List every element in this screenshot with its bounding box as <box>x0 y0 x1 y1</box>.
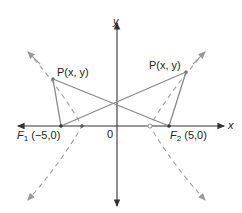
point-p-left-dot <box>51 77 55 81</box>
right-branch-upper-arrow <box>193 52 205 64</box>
vertex-left-dot <box>80 124 84 128</box>
focus-f2-subscript: 2 <box>177 134 181 143</box>
y-axis-label: y <box>113 16 119 27</box>
diagram-canvas <box>0 0 242 213</box>
point-p-right-dot <box>184 70 188 74</box>
origin-label: 0 <box>107 129 113 140</box>
focus-f1-coords: (−5,0) <box>31 129 60 141</box>
focus-f1-name: F <box>17 129 24 141</box>
focus-f2-dot <box>167 124 171 128</box>
focus-f1-label: F1 (−5,0) <box>17 130 60 143</box>
focus-f2-label: F2 (5,0) <box>170 130 207 143</box>
focus-f1-subscript: 1 <box>24 134 28 143</box>
segment-left-p-to-f1 <box>53 79 61 126</box>
segment-left-p-to-f2 <box>53 79 169 126</box>
x-axis-label: x <box>228 120 234 131</box>
focus-f1-dot <box>59 124 63 128</box>
focus-f2-coords: (5,0) <box>184 129 207 141</box>
segment-right-p-to-f1 <box>61 72 186 126</box>
point-p-right-label: P(x, y) <box>149 60 181 71</box>
left-branch-upper-arrow <box>28 52 40 64</box>
hyperbola-diagram: y x 0 P(x, y) P(x, y) F1 (−5,0) F2 (5,0) <box>0 0 242 213</box>
focus-f2-name: F <box>170 129 177 141</box>
vertex-right-dot <box>148 124 152 128</box>
segment-right-p-to-f2 <box>169 72 186 126</box>
point-p-left-label: P(x, y) <box>57 67 89 78</box>
